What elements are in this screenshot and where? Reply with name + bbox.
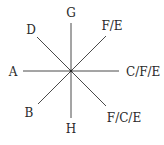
ray-up-left — [37, 37, 71, 71]
label-up: G — [66, 6, 76, 20]
ray-up-right — [71, 36, 106, 71]
ray-down-left — [38, 71, 71, 104]
label-up-right: F/E — [101, 19, 122, 33]
label-left: A — [8, 65, 18, 79]
label-right: C/F/E — [126, 65, 160, 79]
label-down: H — [66, 122, 76, 136]
ray-down-right — [71, 71, 106, 106]
label-up-left: D — [26, 23, 36, 37]
star-diagram: G H A C/F/E D F/E B F/C/E — [0, 0, 164, 145]
label-down-left: B — [25, 106, 34, 120]
center-point — [70, 70, 73, 73]
label-down-right: F/C/E — [107, 111, 141, 125]
